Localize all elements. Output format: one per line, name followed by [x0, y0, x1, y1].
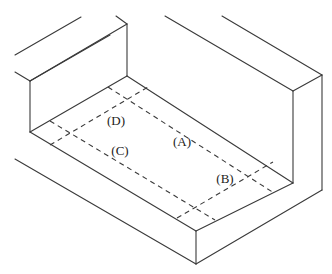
right-wall-top-front-edge: [165, 16, 293, 91]
dashed-line-left-short: [50, 87, 148, 145]
right-wall: [165, 16, 322, 190]
floor-back-right-edge: [127, 76, 293, 183]
region-label-b: (B): [216, 171, 233, 187]
left-wall-inner-top-edge: [30, 24, 127, 81]
region-label-c: (C): [111, 143, 128, 159]
floor: [15, 76, 322, 264]
slab-bottom-left-edge: [15, 159, 196, 264]
region-label-a: (A): [173, 134, 191, 150]
left-wall-top-back-edge: [15, 17, 81, 55]
floor-front-right-edge: [196, 183, 293, 231]
right-wall-top-end-edge: [293, 75, 322, 91]
dashed-lines: [50, 87, 274, 220]
diagram-drawing: [0, 0, 332, 274]
right-wall-top-back-edge: [222, 16, 322, 75]
left-wall-top-stub: [15, 72, 30, 81]
back-wall-top-stub: [116, 16, 127, 24]
isometric-floor-diagram: (A) (B) (C) (D): [0, 0, 332, 274]
slab-bottom-right-edge: [196, 190, 322, 264]
region-label-d: (D): [107, 113, 125, 129]
